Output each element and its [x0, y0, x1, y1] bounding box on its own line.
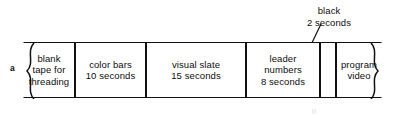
tape-strip: blanktape forthreadingcolor bars10 secon… [23, 42, 382, 98]
segment-label-color-bars: color bars10 seconds [85, 59, 137, 82]
segment-leader-numbers-line-2: numbers [261, 64, 305, 75]
panel-label-a: a [10, 63, 15, 73]
callout-line-2: 2 seconds [286, 17, 372, 29]
segment-program-video-line-2: video [341, 70, 377, 81]
segment-program-video: programvideo [336, 42, 382, 98]
segment-visual-slate-line-2: 15 seconds [171, 70, 221, 81]
segment-label-leader-numbers: leadernumbers8 seconds [260, 53, 306, 87]
segment-leader-numbers-line-3: 8 seconds [261, 76, 305, 87]
segment-leader-numbers-line-1: leader [261, 53, 305, 64]
segment-visual-slate: visual slate15 seconds [146, 42, 246, 98]
callout-line-1: black [286, 5, 372, 17]
segment-label-blank-tape: blanktape forthreading [28, 53, 71, 87]
segment-blank-tape-line-2: tape for [29, 64, 70, 75]
segment-leader-numbers: leadernumbers8 seconds [246, 42, 320, 98]
segment-color-bars-line-1: color bars [86, 59, 136, 70]
scan-artifact: ll [312, 108, 346, 114]
segment-label-program-video: programvideo [340, 59, 378, 82]
segment-color-bars: color bars10 seconds [75, 42, 146, 98]
segment-program-video-line-1: program [341, 59, 377, 70]
callout-black-2-seconds: black 2 seconds [286, 5, 372, 28]
videotape-leader-diagram: black 2 seconds a blanktape forthreading… [0, 0, 400, 119]
segment-black [320, 42, 336, 98]
segment-color-bars-line-2: 10 seconds [86, 70, 136, 81]
segment-label-visual-slate: visual slate15 seconds [170, 59, 222, 82]
segment-blank-tape-line-1: blank [29, 53, 70, 64]
segment-blank-tape-line-3: threading [29, 76, 70, 87]
segment-visual-slate-line-1: visual slate [171, 59, 221, 70]
segment-blank-tape: blanktape forthreading [23, 42, 75, 98]
